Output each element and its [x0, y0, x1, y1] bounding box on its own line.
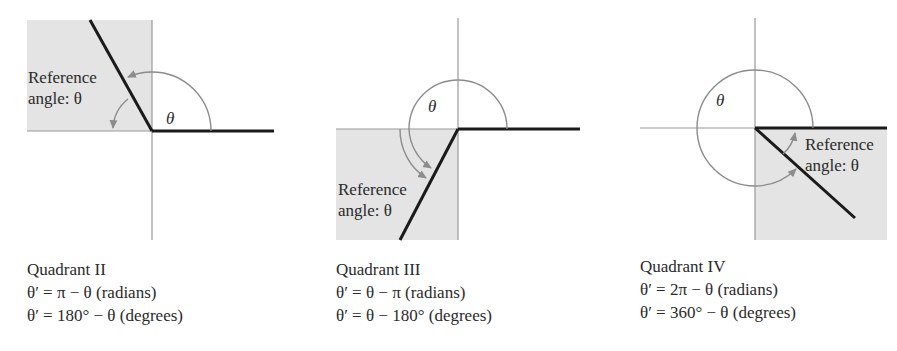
formula-radians: θ′ = π − θ (radians)	[27, 281, 183, 304]
caption-quadrant-ii: Quadrant II θ′ = π − θ (radians) θ′ = 18…	[27, 258, 183, 327]
caption-title: Quadrant II	[27, 258, 183, 281]
theta-label: θ	[716, 91, 724, 110]
theta-label: θ	[428, 97, 436, 116]
reference-label-line2: angle: θ	[338, 201, 392, 220]
reference-label-line1: Reference	[338, 180, 407, 199]
formula-degrees: θ′ = θ − 180° (degrees)	[336, 304, 492, 327]
theta-label: θ	[166, 109, 174, 128]
panel-quadrant-iv: θ Reference angle: θ	[640, 18, 887, 240]
reference-label-line1: Reference	[28, 68, 97, 87]
reference-label-line2: angle: θ	[28, 89, 82, 108]
caption-title: Quadrant IV	[640, 255, 796, 278]
caption-title: Quadrant III	[336, 258, 492, 281]
formula-degrees: θ′ = 180° − θ (degrees)	[27, 304, 183, 327]
formula-radians: θ′ = 2π − θ (radians)	[640, 278, 796, 301]
panel-quadrant-ii: θ Reference angle: θ	[27, 20, 274, 240]
reference-label-line1: Reference	[805, 135, 874, 154]
reference-label-line2: angle: θ	[805, 156, 859, 175]
formula-radians: θ′ = θ − π (radians)	[336, 281, 492, 304]
panel-quadrant-iii: θ Reference angle: θ	[336, 18, 580, 240]
caption-quadrant-iv: Quadrant IV θ′ = 2π − θ (radians) θ′ = 3…	[640, 255, 796, 324]
formula-degrees: θ′ = 360° − θ (degrees)	[640, 301, 796, 324]
caption-quadrant-iii: Quadrant III θ′ = θ − π (radians) θ′ = θ…	[336, 258, 492, 327]
